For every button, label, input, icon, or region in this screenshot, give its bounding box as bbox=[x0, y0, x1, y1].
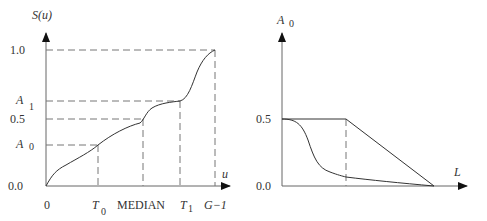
upper-bound-line bbox=[282, 119, 434, 186]
x-tick-t0: T bbox=[92, 198, 100, 212]
y-axis-label-a: A bbox=[276, 13, 285, 27]
x-tick-median: MEDIAN bbox=[117, 198, 165, 212]
x-tick-t1: T bbox=[180, 198, 188, 212]
x-tick-t1-sub: 1 bbox=[188, 203, 193, 214]
y-tick-a1-sub: 1 bbox=[29, 101, 34, 112]
x-tick-0: 0 bbox=[44, 198, 50, 212]
x-axis-label-l: L bbox=[453, 165, 461, 179]
diagram-canvas: S(u) 1.0 A 1 0.5 A 0 0.0 u 0 T 0 MEDIAN … bbox=[0, 0, 487, 221]
decay-curve bbox=[282, 119, 434, 186]
y-tick-0.0: 0.0 bbox=[8, 179, 23, 193]
right-y-tick-0.5: 0.5 bbox=[256, 112, 271, 126]
y-tick-a0-sub: 0 bbox=[29, 141, 34, 152]
right-plot: A 0 0.5 0.0 L bbox=[256, 13, 467, 193]
left-plot: S(u) 1.0 A 1 0.5 A 0 0.0 u 0 T 0 MEDIAN … bbox=[8, 8, 230, 217]
y-tick-a1: A bbox=[15, 93, 24, 107]
y-tick-a0: A bbox=[15, 137, 24, 151]
y-axis-label-a-sub: 0 bbox=[289, 18, 294, 29]
cdf-curve bbox=[46, 50, 215, 186]
right-y-tick-0.0: 0.0 bbox=[256, 179, 271, 193]
y-tick-1.0: 1.0 bbox=[10, 43, 25, 57]
x-axis-label-u: u bbox=[222, 167, 228, 181]
y-tick-0.5: 0.5 bbox=[10, 112, 25, 126]
x-tick-t0-sub: 0 bbox=[101, 206, 106, 217]
x-tick-g-1: G−1 bbox=[204, 198, 227, 212]
y-axis-label-s-u: S(u) bbox=[32, 8, 52, 22]
